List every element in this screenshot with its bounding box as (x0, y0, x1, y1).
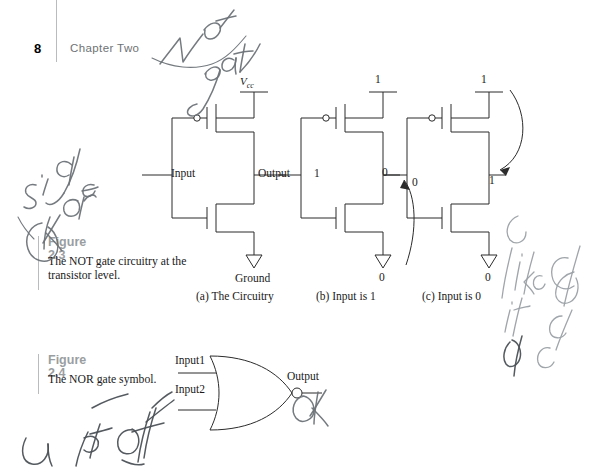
handwriting-c-squiggle (498, 212, 538, 252)
handwriting-nor-squiggle (286, 390, 336, 440)
handwriting-ok-mark (16, 215, 76, 285)
caption-divider (38, 354, 39, 394)
chapter-title: Chapter Two (70, 43, 139, 55)
subcaption-a: (a) The Circuitry (196, 291, 274, 303)
nor-input1-label: Input1 (175, 355, 205, 367)
subcaption-b: (b) Input is 1 (316, 291, 376, 303)
circuit-b-output-value: 0 (382, 167, 388, 179)
header-divider (56, 0, 57, 62)
circuit-b-supply-value: 1 (375, 74, 381, 86)
subcaption-c: (c) Input is 0 (422, 291, 481, 303)
circuit-b-ground-value: 0 (379, 272, 385, 284)
handwriting-not-gate (150, 8, 265, 123)
figure-2-4-text: The NOR gate symbol. (48, 373, 188, 387)
circuit-c-supply-value: 1 (481, 74, 487, 86)
circuit-c-output-value: 1 (489, 175, 495, 187)
textbook-page: 8 Chapter Two Figure 2.3 The NOT gate ci… (0, 0, 604, 467)
handwriting-right-note (488, 238, 604, 388)
circuit-c-input-value: 0 (412, 177, 418, 189)
page-number: 8 (34, 42, 41, 55)
handwriting-bottom-note (4, 394, 204, 467)
circuit-a-output-label: Output (258, 168, 290, 180)
circuit-a-ground-label: Ground (235, 273, 270, 285)
circuit-b-input-value: 1 (314, 168, 320, 180)
nor-output-label: Output (287, 371, 319, 383)
circuit-a-input-label: Input (171, 168, 195, 180)
